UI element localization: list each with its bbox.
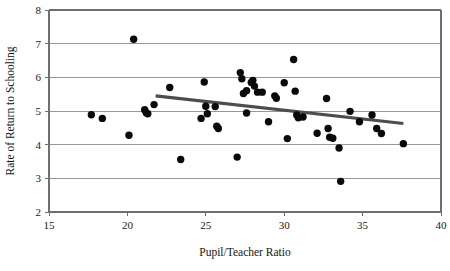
data-point <box>299 113 306 120</box>
data-point <box>197 115 204 122</box>
x-tick-label-25: 25 <box>200 219 212 231</box>
data-point <box>243 87 250 94</box>
y-axis-title: Rate of Return to Schooling <box>4 46 17 175</box>
y-tick-group: 2345678 <box>36 4 50 218</box>
data-point <box>323 95 330 102</box>
data-point <box>273 95 280 102</box>
data-point <box>335 144 342 151</box>
data-point <box>368 111 375 118</box>
data-point <box>99 115 106 122</box>
x-tick-label-15: 15 <box>44 219 56 231</box>
x-axis-title: Pupil/Teacher Ratio <box>199 246 291 259</box>
y-tick-label-7: 7 <box>36 38 42 50</box>
y-tick-label-2: 2 <box>36 206 42 218</box>
scatter-plot-figure: 2345678 152025303540 Pupil/Teacher Ratio… <box>0 0 450 271</box>
data-point <box>166 84 173 91</box>
data-point <box>150 101 157 108</box>
data-point <box>259 88 266 95</box>
data-point <box>284 135 291 142</box>
y-tick-label-8: 8 <box>36 4 42 16</box>
data-point <box>212 103 219 110</box>
y-tick-label-4: 4 <box>36 139 42 151</box>
data-point <box>130 36 137 43</box>
y-tick-label-3: 3 <box>36 172 42 184</box>
data-point <box>281 79 288 86</box>
x-tick-label-30: 30 <box>279 219 291 231</box>
x-tick-label-20: 20 <box>122 219 134 231</box>
data-point <box>400 140 407 147</box>
x-tick-label-35: 35 <box>357 219 369 231</box>
data-point <box>265 118 272 125</box>
data-point <box>201 78 208 85</box>
data-point <box>125 132 132 139</box>
data-point <box>233 153 240 160</box>
data-point <box>337 178 344 185</box>
data-point <box>290 56 297 63</box>
data-point <box>204 110 211 117</box>
data-point <box>88 111 95 118</box>
data-point-group <box>88 36 407 185</box>
chart-canvas: 2345678 152025303540 Pupil/Teacher Ratio… <box>0 0 450 271</box>
y-tick-label-6: 6 <box>36 71 42 83</box>
x-tick-label-40: 40 <box>436 219 448 231</box>
data-point <box>177 156 184 163</box>
data-point <box>238 75 245 82</box>
data-point <box>356 118 363 125</box>
data-point <box>324 125 331 132</box>
data-point <box>202 103 209 110</box>
data-point <box>144 110 151 117</box>
data-point <box>313 130 320 137</box>
data-point <box>378 130 385 137</box>
data-point <box>329 135 336 142</box>
data-point <box>243 109 250 116</box>
data-point <box>215 125 222 132</box>
x-tick-group: 152025303540 <box>44 212 448 231</box>
data-point <box>346 108 353 115</box>
data-point <box>291 87 298 94</box>
y-tick-label-5: 5 <box>36 105 42 117</box>
